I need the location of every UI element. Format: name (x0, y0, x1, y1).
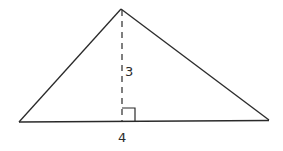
base-label: 4 (118, 131, 126, 144)
left-side (19, 9, 121, 122)
base-line (19, 121, 269, 123)
triangle-diagram (0, 0, 283, 151)
right-angle-marker (122, 108, 135, 121)
height-label: 3 (125, 65, 133, 78)
right-side (121, 9, 269, 120)
